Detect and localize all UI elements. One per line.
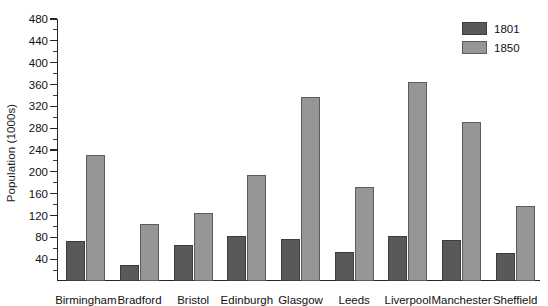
x-axis-label-sheffield: Sheffield: [493, 294, 538, 306]
legend-item-1850: 1850: [462, 41, 520, 54]
y-tick-label: 320: [29, 100, 48, 112]
bar-manchester-1801: [442, 240, 461, 281]
y-tick-major: [50, 171, 57, 172]
bar-bristol-1801: [174, 245, 193, 281]
y-tick-label: 440: [29, 35, 48, 47]
legend-item-1801: 1801: [462, 22, 520, 35]
x-axis-label-bradford: Bradford: [117, 294, 161, 306]
x-axis-label-manchester: Manchester: [431, 294, 491, 306]
x-axis-label-liverpool: Liverpool: [384, 294, 431, 306]
y-tick-major: [50, 106, 57, 107]
y-tick-major: [50, 18, 57, 19]
bar-sheffield-1850: [516, 206, 535, 281]
legend-swatch-1801: [462, 22, 487, 35]
y-tick-major: [50, 40, 57, 41]
bar-edinburgh-1801: [227, 236, 246, 281]
y-tick-label: 480: [29, 13, 48, 25]
bar-birmingham-1801: [66, 241, 85, 281]
y-tick-label: 200: [29, 166, 48, 178]
bar-manchester-1850: [462, 122, 481, 281]
y-tick-major: [50, 84, 57, 85]
bar-leeds-1801: [335, 252, 354, 281]
chart-legend: 18011850: [462, 22, 520, 54]
bar-bradford-1850: [140, 224, 159, 281]
bar-leeds-1850: [355, 187, 374, 281]
bar-glasgow-1801: [281, 239, 300, 281]
y-tick-major: [50, 128, 57, 129]
bar-bradford-1801: [120, 265, 139, 281]
x-axis-label-glasgow: Glasgow: [278, 294, 323, 306]
bar-edinburgh-1850: [247, 175, 266, 281]
y-axis-title: Population (1000s): [0, 0, 22, 306]
y-tick-label: 360: [29, 79, 48, 91]
legend-swatch-1850: [462, 41, 487, 54]
y-tick-label: 160: [29, 188, 48, 200]
x-axis-label-birmingham: Birmingham: [55, 294, 116, 306]
y-tick-label: 40: [35, 253, 48, 265]
y-tick-major: [50, 215, 57, 216]
bar-liverpool-1801: [388, 236, 407, 281]
x-axis-label-leeds: Leeds: [338, 294, 369, 306]
y-tick-major: [50, 259, 57, 260]
legend-label-1801: 1801: [494, 23, 520, 35]
bar-chart: Population (1000s) 408012016020024028032…: [0, 0, 548, 306]
y-tick-label: 80: [35, 231, 48, 243]
y-tick-label: 280: [29, 122, 48, 134]
y-tick-major: [50, 237, 57, 238]
y-tick-label: 240: [29, 144, 48, 156]
y-tick-major: [50, 62, 57, 63]
bar-glasgow-1850: [301, 97, 320, 281]
bar-birmingham-1850: [86, 155, 105, 281]
y-tick-label: 400: [29, 57, 48, 69]
legend-label-1850: 1850: [494, 42, 520, 54]
x-axis-label-edinburgh: Edinburgh: [221, 294, 273, 306]
bar-liverpool-1850: [408, 82, 427, 281]
x-axis-label-bristol: Bristol: [177, 294, 209, 306]
y-tick-major: [50, 149, 57, 150]
bar-sheffield-1801: [496, 253, 515, 281]
bar-bristol-1850: [194, 213, 213, 281]
y-tick-major: [50, 193, 57, 194]
y-tick-label: 120: [29, 210, 48, 222]
